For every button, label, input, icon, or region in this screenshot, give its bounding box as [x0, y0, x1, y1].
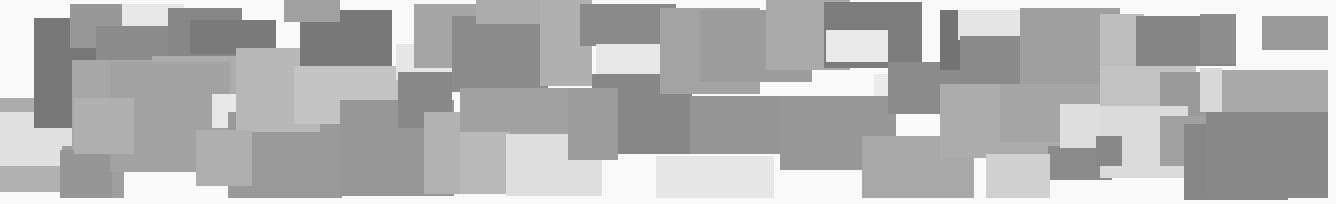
tile-14 [74, 98, 134, 154]
mosaic-image [0, 0, 1336, 204]
tile-69 [1200, 68, 1222, 112]
tile-19 [196, 130, 252, 186]
tile-37 [568, 88, 618, 160]
tile-51 [960, 36, 1024, 84]
tile-67 [1262, 16, 1328, 50]
tile-10 [60, 150, 112, 198]
tile-28 [452, 16, 548, 92]
tile-64 [1096, 136, 1122, 166]
tile-66 [1200, 14, 1236, 64]
tile-21 [284, 0, 340, 22]
tile-40 [656, 156, 774, 198]
tile-30 [460, 88, 582, 138]
tile-31 [460, 132, 510, 194]
tile-70 [1206, 112, 1328, 198]
tile-56 [986, 154, 1050, 198]
tile-44 [826, 30, 888, 62]
